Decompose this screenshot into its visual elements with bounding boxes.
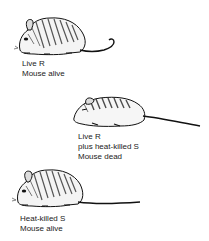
caption-live-r: Live R Mouse alive bbox=[22, 59, 65, 79]
caption-line: Mouse dead bbox=[78, 152, 139, 162]
caption-line: Live R bbox=[78, 132, 139, 142]
mouse-icon bbox=[14, 12, 119, 57]
caption-line: Live R bbox=[22, 59, 65, 69]
dead-mouse-icon bbox=[70, 90, 205, 130]
caption-line: Mouse alive bbox=[22, 69, 65, 79]
caption-heat-killed-s: Heat-killed S Mouse alive bbox=[20, 214, 65, 234]
caption-live-r-plus-heat-killed-s: Live R plus heat-killed S Mouse dead bbox=[78, 132, 139, 162]
caption-line: Heat-killed S bbox=[20, 214, 65, 224]
mouse-icon bbox=[12, 166, 142, 208]
panel-live-r: Live R Mouse alive bbox=[0, 0, 209, 80]
panel-live-r-plus-heat-killed-s: Live R plus heat-killed S Mouse dead bbox=[0, 80, 209, 162]
caption-line: plus heat-killed S bbox=[78, 142, 139, 152]
panel-heat-killed-s: Heat-killed S Mouse alive bbox=[0, 162, 209, 241]
caption-line: Mouse alive bbox=[20, 224, 65, 234]
